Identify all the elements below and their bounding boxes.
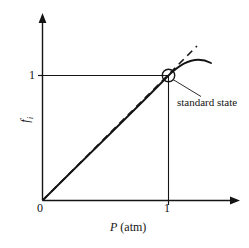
x-axis-tick-label-1: 1 xyxy=(164,202,170,214)
standard-state-leader-line xyxy=(173,80,201,97)
standard-state-annotation-label: standard state xyxy=(177,97,237,108)
y-axis-tick-label-1: 1 xyxy=(29,69,35,81)
fugacity-pressure-figure: 1 0 1 P (atm) fi standard state xyxy=(0,0,249,248)
y-axis xyxy=(39,13,47,200)
x-axis xyxy=(43,197,241,205)
y-axis-title-subscript: i xyxy=(25,117,35,120)
origin-tick-label-0: 0 xyxy=(37,202,43,214)
y-axis-title-symbol: f xyxy=(18,119,32,122)
y-axis-title: fi xyxy=(19,103,34,137)
fugacity-curve xyxy=(43,60,211,200)
x-axis-title: P (atm) xyxy=(110,221,146,233)
x-axis-title-units: (atm) xyxy=(117,220,146,234)
